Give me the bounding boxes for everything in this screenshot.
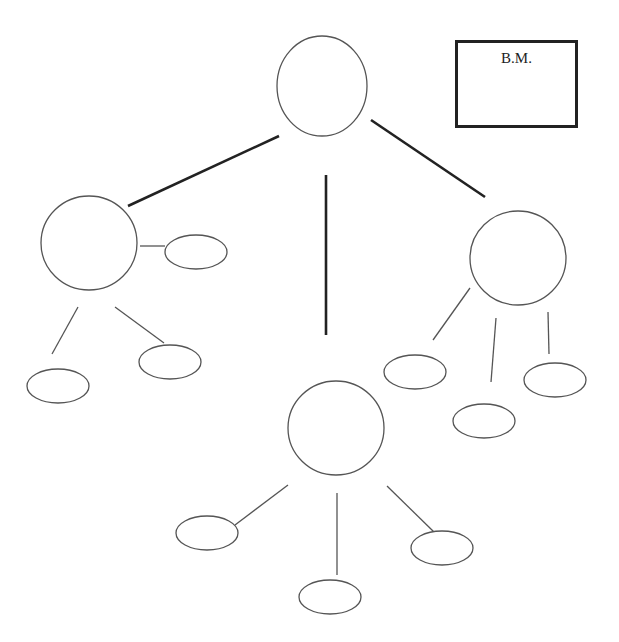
connector-right-to-right-a — [433, 288, 470, 340]
connector-right-to-right-c — [548, 312, 549, 354]
ellipse-node-right-c — [524, 363, 586, 397]
circle-node-right — [470, 211, 566, 305]
label-box-text: B.M. — [458, 50, 575, 67]
connector-root-to-right — [371, 120, 485, 197]
ellipse-node-right-a — [384, 355, 446, 389]
circle-node-root — [277, 36, 367, 136]
circle-node-left — [41, 196, 137, 290]
ellipse-node-bottom-c — [411, 531, 473, 565]
ellipse-node-left-c — [139, 345, 201, 379]
ellipse-node-left-b — [27, 369, 89, 403]
connector-bottom-to-bottom-c — [387, 486, 434, 532]
connector-lines — [52, 120, 549, 575]
connector-bottom-to-bottom-a — [235, 485, 288, 525]
connector-root-to-left — [128, 136, 279, 206]
label-box: B.M. — [455, 40, 578, 128]
connector-right-to-right-b — [491, 318, 496, 382]
ellipse-node-bottom-b — [299, 580, 361, 614]
circle-node-bottom — [288, 381, 384, 475]
ellipse-node-bottom-a — [176, 516, 238, 550]
ellipse-node-right-b — [453, 404, 515, 438]
ellipse-node-left-a — [165, 235, 227, 269]
connector-left-to-left-c — [115, 307, 164, 343]
connector-left-to-left-b — [52, 307, 78, 354]
